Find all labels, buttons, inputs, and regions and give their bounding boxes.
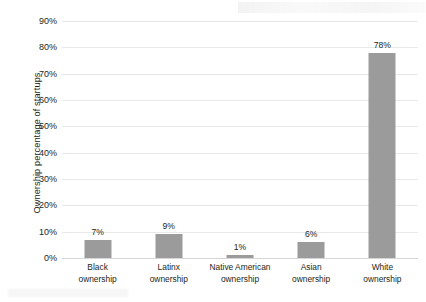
- x-tick-label-line: ownership: [347, 274, 418, 286]
- x-tick-label-line: White: [347, 262, 418, 274]
- x-tick-label-line: Asian: [276, 262, 347, 274]
- bar-value-label: 1%: [234, 242, 246, 252]
- x-tick-label-line: Native American: [204, 262, 275, 274]
- x-tick-label-white-ownership: Whiteownership: [347, 262, 418, 285]
- y-axis-title: Ownership percentage of startups: [32, 29, 42, 257]
- scan-artifact-top: [238, 2, 426, 13]
- x-tick-label-line: ownership: [62, 274, 133, 286]
- x-tick-label-line: ownership: [276, 274, 347, 286]
- y-tick-label-10pct: 10%: [39, 227, 57, 237]
- bar-black-ownership[interactable]: [84, 240, 111, 258]
- bar-slot: 78%: [347, 21, 418, 258]
- bar-slot: 6%: [276, 21, 347, 258]
- bar-value-label: 78%: [374, 40, 391, 50]
- bar-latinx-ownership[interactable]: [155, 234, 182, 258]
- gridline-0pct: 0%: [62, 258, 418, 259]
- bar-slot: 1%: [204, 21, 275, 258]
- x-tick-label-latinx-ownership: Latinxownership: [133, 262, 204, 285]
- y-tick-label-50pct: 50%: [39, 121, 57, 131]
- x-tick-label-line: Latinx: [133, 262, 204, 274]
- y-tick-label-30pct: 30%: [39, 174, 57, 184]
- bar-native-american-ownership[interactable]: [226, 255, 253, 258]
- y-tick-label-60pct: 60%: [39, 95, 57, 105]
- bar-slot: 9%: [133, 21, 204, 258]
- x-tick-label-line: ownership: [133, 274, 204, 286]
- bar-slot: 7%: [62, 21, 133, 258]
- y-tick-label-90pct: 90%: [39, 16, 57, 26]
- bar-value-label: 7%: [91, 227, 103, 237]
- x-tick-label-line: ownership: [204, 274, 275, 286]
- y-tick-label-80pct: 80%: [39, 42, 57, 52]
- x-tick-label-black-ownership: Blackownership: [62, 262, 133, 285]
- x-tick-label-line: Black: [62, 262, 133, 274]
- y-tick-label-0pct: 0%: [44, 253, 57, 263]
- bar-asian-ownership[interactable]: [298, 242, 325, 258]
- x-tick-label-native-american-ownership: Native Americanownership: [204, 262, 275, 285]
- bar-value-label: 6%: [305, 229, 317, 239]
- bars-group: 7%9%1%6%78%: [62, 21, 418, 258]
- bar-chart-figure: Ownership percentage of startups 0%10%20…: [0, 0, 426, 302]
- y-tick-label-20pct: 20%: [39, 200, 57, 210]
- y-tick-label-40pct: 40%: [39, 148, 57, 158]
- x-tick-label-asian-ownership: Asianownership: [276, 262, 347, 285]
- y-tick-label-70pct: 70%: [39, 69, 57, 79]
- plot-area: 0%10%20%30%40%50%60%70%80%90% 7%9%1%6%78…: [62, 21, 418, 258]
- bar-white-ownership[interactable]: [369, 53, 396, 258]
- x-axis-category-labels: BlackownershipLatinxownershipNative Amer…: [62, 262, 418, 300]
- bar-value-label: 9%: [163, 221, 175, 231]
